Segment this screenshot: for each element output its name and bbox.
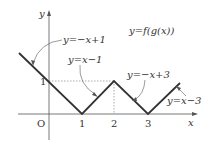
y-tick-1: 1 [40,76,46,87]
annotation-seg4: y=x−3 [166,95,201,106]
x-tick-3: 3 [145,118,151,129]
leader-seg1 [33,40,62,63]
leader-seg2 [80,65,96,95]
origin-label: O [37,118,45,129]
leader-seg3 [134,80,145,100]
figure-title: y=f(g(x)) [128,25,174,36]
x-tick-1: 1 [79,118,85,129]
x-axis-label: x [188,117,194,128]
y-axis-label: y [38,8,45,19]
function-graph: y x O 1 2 3 1 y=f(g(x)) y=−x+1 y=x−1 y=−… [0,0,212,151]
y-axis-arrow-icon [47,10,51,16]
annotation-seg1: y=−x+1 [62,34,106,45]
annotation-seg3: y=−x+3 [126,69,170,80]
x-axis-arrow-icon [192,112,198,116]
x-tick-2: 2 [111,118,117,129]
annotation-seg2: y=x−1 [67,54,102,65]
